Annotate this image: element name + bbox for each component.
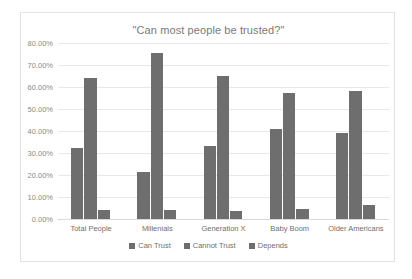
bar — [296, 209, 308, 219]
y-tick-label: 20.00% — [28, 171, 53, 180]
y-tick-label: 70.00% — [28, 61, 53, 70]
legend-label: Cannot Trust — [193, 241, 236, 250]
bar — [270, 129, 282, 219]
legend-item[interactable]: Depends — [249, 241, 288, 250]
bar-group — [137, 43, 177, 219]
bar-group — [204, 43, 244, 219]
bar — [217, 76, 229, 219]
bar — [84, 78, 96, 219]
legend-label: Can Trust — [138, 241, 171, 250]
bar — [71, 148, 83, 219]
bar — [283, 93, 295, 220]
category-label: Total People — [70, 224, 111, 233]
bar-series-layer — [58, 43, 389, 219]
bar — [349, 91, 361, 219]
legend-swatch-icon — [184, 243, 190, 249]
bar — [336, 133, 348, 219]
bar-group — [71, 43, 111, 219]
legend-swatch-icon — [129, 243, 135, 249]
bar — [363, 205, 375, 219]
bar — [98, 210, 110, 219]
legend-item[interactable]: Cannot Trust — [184, 241, 236, 250]
y-tick-label: 30.00% — [28, 149, 53, 158]
bar — [230, 211, 242, 219]
category-label: Older Americans — [328, 224, 383, 233]
chart-title: "Can most people be trusted?" — [21, 24, 396, 36]
y-tick-label: 60.00% — [28, 83, 53, 92]
category-label: Millenials — [142, 224, 173, 233]
bar — [164, 210, 176, 219]
gridline — [58, 219, 389, 220]
chart-frame: "Can most people be trusted?" 80.00%70.0… — [20, 12, 395, 262]
y-tick-label: 40.00% — [28, 127, 53, 136]
legend-swatch-icon — [249, 243, 255, 249]
bar-group — [270, 43, 310, 219]
bar — [137, 172, 149, 219]
chart-legend: Can TrustCannot TrustDepends — [21, 241, 396, 250]
category-label: Generation X — [201, 224, 245, 233]
legend-label: Depends — [258, 241, 288, 250]
bar-group — [336, 43, 376, 219]
y-tick-label: 80.00% — [28, 39, 53, 48]
y-tick-label: 10.00% — [28, 193, 53, 202]
category-label: Baby Boom — [270, 224, 309, 233]
bar — [151, 53, 163, 219]
legend-item[interactable]: Can Trust — [129, 241, 171, 250]
y-tick-label: 0.00% — [32, 215, 53, 224]
bar — [204, 146, 216, 219]
plot-area: 80.00%70.00%60.00%50.00%40.00%30.00%20.0… — [58, 43, 389, 219]
y-tick-label: 50.00% — [28, 105, 53, 114]
